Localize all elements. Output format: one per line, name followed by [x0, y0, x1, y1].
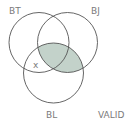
verdict-label: VALID [98, 110, 124, 120]
label-bl: BL [46, 110, 57, 120]
circle-bt [9, 13, 69, 73]
label-bt: BT [9, 6, 21, 16]
x-marker: x [33, 60, 39, 70]
venn-diagram: BT BJ BL x VALID [0, 0, 131, 123]
label-bj: BJ [91, 6, 100, 16]
